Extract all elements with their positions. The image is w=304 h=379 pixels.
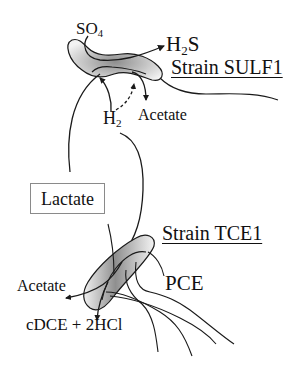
sulf1-acetate-label: Acetate <box>138 107 187 123</box>
so4-base: SO <box>76 19 98 38</box>
lactate-box: Lactate <box>30 183 105 214</box>
h2-dashed-arrow <box>116 84 134 110</box>
lactate-label: Lactate <box>41 190 94 208</box>
strain-sulf1-label: Strain SULF1 <box>171 57 283 77</box>
h2s-h: H <box>166 32 181 56</box>
h2-base: H <box>103 108 116 128</box>
h2-label: H2 <box>103 109 122 127</box>
h2s-label: H2S <box>166 34 199 55</box>
tce1-acetate-label: Acetate <box>17 278 66 294</box>
h2-subscript: 2 <box>116 117 122 129</box>
h2-uptake-arrow <box>100 78 111 112</box>
strain-tce1-label: Strain TCE1 <box>162 223 262 243</box>
sulf1-flagellum <box>160 78 278 100</box>
lactate-to-sulf1-line <box>69 74 100 172</box>
diagram: SO4 H2S Strain SULF1 H2 Acetate Lactate … <box>0 0 304 379</box>
so4-subscript: 4 <box>98 28 103 39</box>
h2s-s: S <box>188 32 200 56</box>
tce1-flagellum-4 <box>110 296 216 344</box>
tce1-cell-body <box>84 235 155 310</box>
pce-input-line <box>148 252 164 276</box>
tce1-flagellum-2 <box>126 270 158 352</box>
cdce-products-label: cDCE + 2HCl <box>26 316 122 333</box>
so4-label: SO4 <box>76 20 103 37</box>
pce-label: PCE <box>165 273 204 294</box>
